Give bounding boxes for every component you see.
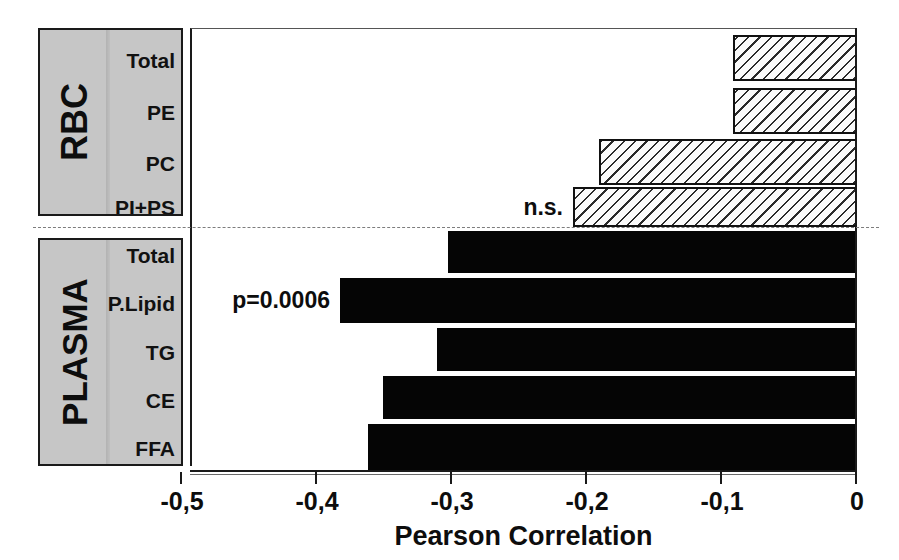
category-label-rbc-total: Total (55, 50, 175, 71)
category-label-rbc-pi-ps: PI+PS (55, 197, 175, 217)
category-label-plasma-total: Total (55, 245, 175, 266)
x-tick-label-1: -0,4 (295, 487, 338, 516)
bar-rbc-pc (599, 139, 857, 185)
bar-rbc-pi-ps (573, 187, 857, 227)
bar-plasma-ffa (368, 424, 857, 470)
bar-plasma-ce (383, 376, 857, 419)
bar-rbc-pe (733, 88, 857, 134)
x-axis-title: Pearson Correlation (190, 521, 857, 552)
bar-rbc-total (733, 35, 857, 81)
x-axis-line-shadow (190, 474, 857, 475)
section-divider (33, 227, 879, 228)
x-tick-1 (315, 472, 317, 484)
bar-plasma-tg (437, 328, 857, 371)
x-tick-label-4: -0,1 (700, 487, 743, 516)
x-tick-3 (585, 472, 587, 484)
bar-plasma-total (448, 231, 857, 273)
category-label-plasma-p-lipid: P.Lipid (55, 293, 175, 314)
x-tick-5 (855, 472, 857, 484)
category-label-rbc-pc: PC (55, 153, 175, 174)
x-tick-2 (450, 472, 452, 484)
bar-plasma-p-lipid (340, 278, 857, 323)
x-tick-0 (180, 472, 182, 484)
category-label-plasma-ce: CE (55, 390, 175, 411)
x-tick-4 (720, 472, 722, 484)
x-axis-line (190, 470, 857, 472)
group-box-rbc: RBC Total PE PC PI+PS (38, 28, 183, 216)
zero-axis-line (855, 28, 857, 472)
x-tick-label-2: -0,3 (430, 487, 473, 516)
correlation-bar-chart: -0,5 -0,4 -0,3 -0,2 -0,1 0 Pearson Corre… (0, 0, 899, 560)
category-label-plasma-tg: TG (55, 342, 175, 363)
annotation-ns: n.s. (503, 194, 563, 221)
annotation-pvalue: p=0.0006 (210, 287, 330, 314)
category-label-plasma-ffa: FFA (55, 438, 175, 459)
x-tick-label-5: 0 (850, 487, 864, 516)
group-box-plasma: PLASMA Total P.Lipid TG CE FFA (38, 238, 183, 466)
x-tick-label-3: -0,2 (565, 487, 608, 516)
category-label-rbc-pe: PE (55, 102, 175, 123)
x-tick-label-0: -0,5 (160, 487, 203, 516)
